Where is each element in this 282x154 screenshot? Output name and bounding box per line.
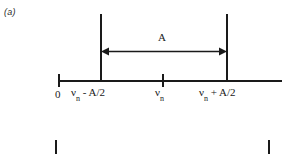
panel-a-letter: (a) <box>4 7 16 17</box>
bandwidth-label: A <box>158 31 166 43</box>
nu-subscript: n <box>204 94 208 103</box>
bandwidth-arrow <box>101 47 227 56</box>
nu-subscript: n <box>76 94 80 103</box>
panel-b: (b) <box>0 110 282 154</box>
axis-label-origin: 0 <box>55 89 61 100</box>
axis-label-upper-edge: νn + A/2 <box>199 87 236 101</box>
axis-label-lower-edge: νn - A/2 <box>71 87 105 101</box>
figure-root: (a) A 0 νn - A/2 νn νn + A/2 <box>0 0 282 154</box>
axis-tick-origin <box>58 74 60 87</box>
panel-a: (a) A 0 νn - A/2 νn νn + A/2 <box>0 0 282 110</box>
axis-label-upper-edge-rest: + A/2 <box>208 86 236 98</box>
nu-subscript: n <box>160 94 164 103</box>
axis-tick-center <box>162 74 164 87</box>
axis-label-lower-edge-rest: - A/2 <box>80 86 105 98</box>
axis-label-center: νn <box>155 87 164 101</box>
frequency-axis-line <box>58 80 282 82</box>
panel-b-line-right <box>268 140 270 154</box>
panel-b-line-left <box>55 140 57 154</box>
